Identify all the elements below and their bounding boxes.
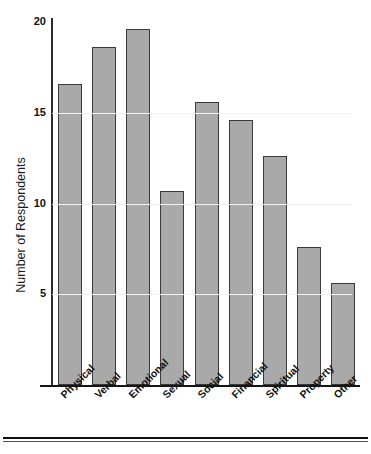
gridlines: [0, 0, 371, 454]
gridline: [52, 113, 352, 114]
bar-chart: Number of Respondents 5101520 PhysicalVe…: [0, 0, 371, 454]
gridline: [52, 294, 352, 295]
gridline: [52, 204, 352, 205]
